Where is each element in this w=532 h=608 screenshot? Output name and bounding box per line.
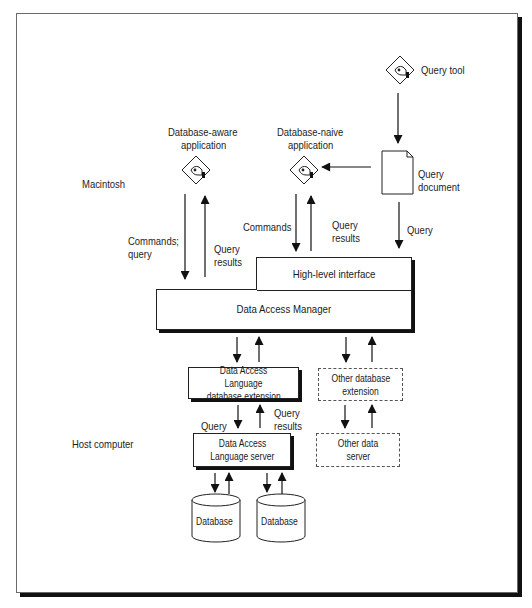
database-naive-label-line2: application (288, 139, 333, 152)
other-data-server-box: Other dataserver (316, 433, 400, 467)
dal-server-label: Data AccessLanguage server (206, 437, 279, 463)
other-db-extension-label: Other databaseextension (327, 372, 394, 398)
dal-extension-label: Data Access Languagedatabase extension (196, 364, 292, 403)
dal-extension-label-line2: database extension (207, 390, 281, 403)
query-document-label-line2: document (418, 181, 460, 194)
database-naive-app-icon (290, 156, 318, 184)
database-naive-label-line1: Database-naive (277, 126, 343, 139)
query-lower-label: Query (201, 420, 227, 433)
data-access-manager-box: Data Access Manager (156, 289, 412, 330)
database-aware-label-line2: application (181, 139, 226, 152)
query-results-lower-label-line1: Query (274, 407, 300, 420)
host-computer-region-label: Host computer (72, 438, 134, 451)
data-access-manager-label: Data Access Manager (237, 303, 332, 316)
query-tool-label: Query tool (421, 64, 465, 77)
query-results-mid-label-line1: Query (332, 219, 358, 232)
query-results-mid-label-line2: results (332, 232, 360, 245)
commands-label: Commands (243, 221, 291, 234)
dal-server-label-line1: Data Access (218, 437, 265, 450)
interface-divider (257, 288, 411, 291)
other-data-server-label: Other dataserver (335, 437, 381, 463)
query-right-label: Query (407, 224, 433, 237)
query-document-label-line1: Query (418, 168, 444, 181)
high-level-interface-box: High-level interface (256, 257, 412, 291)
dal-server-label-line2: Language server (210, 450, 274, 463)
dal-extension-box: Data Access Languagedatabase extension (188, 367, 299, 399)
other-db-extension-label-line1: Other database (331, 372, 390, 385)
database-aware-app-icon (182, 156, 210, 184)
other-data-server-label-line1: Other data (338, 437, 378, 450)
query-tool-icon (386, 56, 414, 84)
commands-query-label-line2: query (128, 248, 152, 261)
database-2-label: Database (261, 516, 298, 527)
database-1-label: Database (196, 516, 233, 527)
other-db-extension-label-line2: extension (342, 385, 378, 398)
database-aware-label-line1: Database-aware (168, 126, 237, 139)
other-data-server-label-line2: server (346, 450, 370, 463)
query-results-lower-label-line2: results (274, 420, 302, 433)
query-results-left-label-line1: Query (214, 243, 240, 256)
dal-extension-label-line1: Data Access Language (201, 364, 285, 390)
other-db-extension-box: Other databaseextension (318, 368, 403, 401)
query-results-left-label-line2: results (214, 256, 242, 269)
query-document-icon (382, 151, 413, 194)
commands-query-label-line1: Commands; (128, 235, 179, 248)
high-level-interface-label: High-level interface (293, 268, 376, 281)
dal-server-box: Data AccessLanguage server (193, 433, 291, 467)
macintosh-region-label: Macintosh (82, 178, 125, 191)
